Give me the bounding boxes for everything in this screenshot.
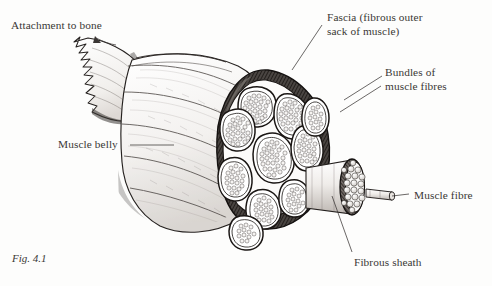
label-attachment-to-bone: Attachment to bone xyxy=(11,19,102,33)
fascicle xyxy=(253,133,294,183)
fascicle xyxy=(302,98,329,136)
label-bundles-line2: muscle fibres xyxy=(385,80,447,92)
single-muscle-fibre xyxy=(366,189,395,200)
extracted-bundle xyxy=(306,159,395,215)
fascicle xyxy=(218,157,252,201)
leader-bundles xyxy=(344,76,382,100)
label-fascia: Fascia (fibrous outer sack of muscle) xyxy=(327,11,423,38)
label-bundles-of-muscle-fibres: Bundles of muscle fibres xyxy=(385,66,447,93)
leader-fascia xyxy=(292,25,322,70)
fascicle xyxy=(220,109,255,151)
label-fascia-line2: sack of muscle) xyxy=(327,25,399,37)
label-bundles-line1: Bundles of xyxy=(385,66,435,78)
label-fascia-line1: Fascia (fibrous outer xyxy=(327,11,423,23)
label-muscle-fibre: Muscle fibre xyxy=(414,189,473,203)
figure-caption: Fig. 4.1 xyxy=(12,252,47,264)
label-muscle-belly: Muscle belly xyxy=(58,138,118,152)
fascicle xyxy=(279,180,310,217)
figure-page: Attachment to bone Fascia (fibrous outer… xyxy=(0,0,492,286)
fascicle xyxy=(229,216,263,250)
label-fibrous-sheath: Fibrous sheath xyxy=(354,256,422,270)
